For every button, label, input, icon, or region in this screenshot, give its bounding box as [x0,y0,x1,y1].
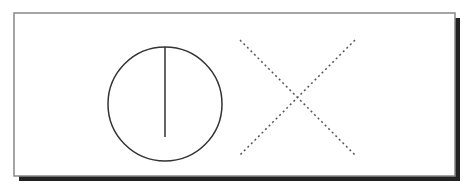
diagram [0,0,470,188]
frame [14,13,455,176]
